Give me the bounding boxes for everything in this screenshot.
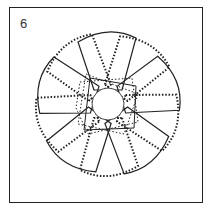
rotational-petal-figure <box>0 0 209 209</box>
center-circle <box>92 88 124 120</box>
